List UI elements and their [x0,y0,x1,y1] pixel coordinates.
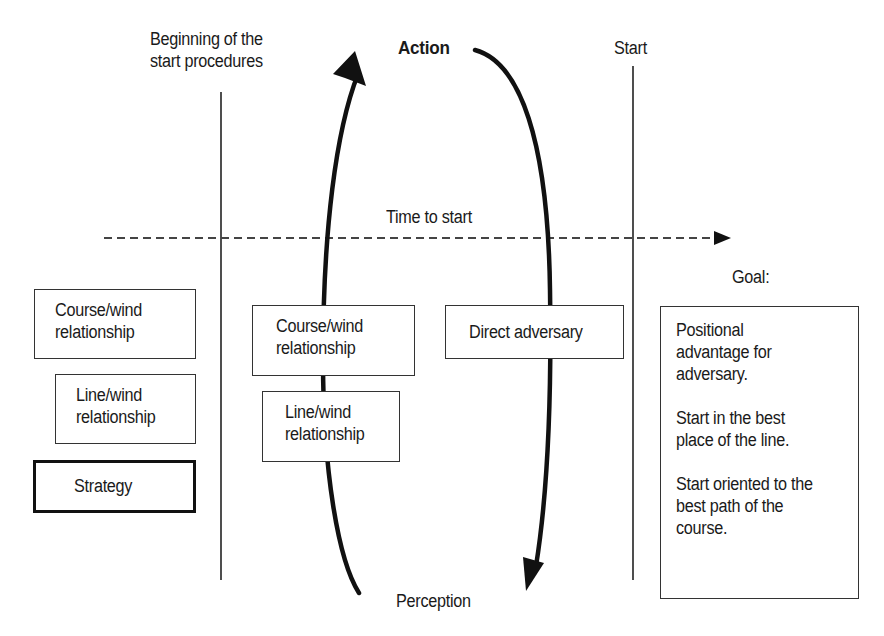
center-course-wind-box: Course/wind relationship [252,305,415,376]
beginning-of-start-label: Beginning of the start procedures [150,28,263,72]
box-text-line: Strategy [74,475,132,497]
beginning-label-line-2: start procedures [150,50,263,72]
goal-text-line: course. [676,517,813,539]
goal-text-line: adversary. [676,363,813,385]
left-line-wind-box: Line/wind relationship [55,374,196,444]
goal-text-line: Start oriented to the [676,473,813,495]
time-to-start-label: Time to start [386,206,472,228]
goal-text-line: Start in the best [676,407,813,429]
box-text-line: relationship [285,423,365,445]
start-label: Start [614,37,647,59]
box-text-line: Course/wind [276,315,363,337]
action-label: Action [398,37,450,59]
box-text-line: relationship [76,406,156,428]
perception-label: Perception [396,590,471,612]
goal-text-line: advantage for [676,341,813,363]
goal-text-line: best path of the [676,495,813,517]
beginning-label-line-1: Beginning of the [150,28,263,50]
goal-text-line: place of the line. [676,429,813,451]
perception-arrowhead-icon [523,557,544,591]
box-text-line: Course/wind [55,299,142,321]
action-arrowhead-icon [333,51,366,86]
box-text-line: relationship [55,321,142,343]
box-text-line: Line/wind [285,401,365,423]
goal-text-line: Positional [676,319,813,341]
box-text-line: relationship [276,337,363,359]
goal-box: Positional advantage for adversary. Star… [660,306,859,599]
box-text-line: Line/wind [76,384,156,406]
strategy-box: Strategy [33,460,196,513]
center-line-wind-box: Line/wind relationship [262,391,400,462]
goal-heading: Goal: [732,266,769,288]
box-text-line: Direct adversary [469,321,583,343]
direct-adversary-box: Direct adversary [445,305,624,359]
left-course-wind-box: Course/wind relationship [34,289,196,359]
time-axis-arrowhead-icon [714,231,731,245]
